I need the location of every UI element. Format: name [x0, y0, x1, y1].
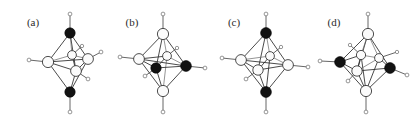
panel-b-vertex-left-open: [134, 54, 145, 65]
figure-root: (a)(b)(c)(d): [0, 0, 414, 126]
panel-c-ligand-back: [279, 45, 282, 48]
panel-b-vertex-back-open: [163, 52, 172, 61]
panel-c-vertex-front-open: [253, 65, 263, 75]
panel-d-ligand-left: [318, 59, 322, 63]
panel-d-vertex-front-open: [352, 66, 362, 76]
panel-a-ligand-back: [80, 44, 83, 47]
panel-c-vertex-back-open: [266, 52, 275, 61]
panel-c-label: (c): [228, 16, 241, 29]
panel-a-ligand-right: [99, 50, 103, 54]
panel-c-vertex-bottom-filled: [261, 87, 272, 98]
panel-b-ligand-bottom: [161, 110, 165, 114]
panel-b-label: (b): [126, 16, 139, 29]
panel-b-vertex-bottom-open: [157, 85, 168, 96]
panel-c-ligand-front: [244, 77, 248, 81]
panel-a-vertex-bottom-filled: [65, 87, 75, 97]
panel-b-ligand-front: [143, 74, 147, 78]
panel-a-ligand-bottom: [68, 110, 72, 114]
panel-a-vertex-front-open: [71, 66, 82, 77]
panel-b-ligand-back: [175, 46, 178, 49]
panel-d-vertex-back-open: [356, 50, 365, 59]
cluster-structures-figure: (a)(b)(c)(d): [0, 0, 414, 126]
panel-d-vertex-top-open: [362, 28, 373, 39]
panel-c-ligand-bottom: [264, 110, 268, 114]
panel-a-vertex-left-open: [42, 56, 53, 67]
panel-b-ligand-top: [161, 12, 165, 16]
panel-d-vertex-right-filled: [385, 63, 396, 74]
panel-a-vertex-top-filled: [65, 28, 75, 38]
panel-d-ligand-front: [346, 79, 350, 83]
panel-a-vertex-back-open: [68, 51, 77, 60]
panel-d-vertex-inner-open: [375, 54, 384, 63]
panel-b-vertex-top-open: [157, 28, 168, 39]
panel-d-ligand-top: [366, 12, 370, 16]
figure-background: [0, 0, 414, 126]
panel-a-ligand-top: [68, 12, 72, 16]
panel-d-vertex-left-filled: [335, 57, 346, 68]
panel-b-vertex-right-filled: [181, 61, 192, 72]
panel-d-label: (d): [328, 16, 341, 29]
panel-a-label: (a): [27, 16, 40, 29]
panel-b-vertex-front-filled: [151, 63, 161, 73]
panel-a-ligand-left: [27, 58, 31, 62]
panel-d-ligand-back: [348, 43, 351, 46]
panel-d-ligand-bottom: [364, 110, 368, 114]
panel-c-ligand-left: [220, 56, 224, 60]
panel-c-ligand-top: [264, 12, 268, 16]
panel-c-vertex-top-filled: [261, 28, 272, 39]
panel-c-ligand-right: [306, 65, 310, 69]
panel-d-vertex-bottom-open: [360, 85, 371, 96]
panel-a-ligand-front: [86, 77, 90, 81]
panel-b-ligand-right: [203, 66, 207, 70]
panel-c-vertex-left-open: [236, 55, 247, 66]
panel-b-ligand-left: [118, 55, 122, 59]
panel-d-ligand-inner: [395, 50, 398, 53]
panel-a-vertex-right-open: [83, 54, 94, 65]
panel-c-vertex-right-open: [283, 60, 294, 71]
panel-d-ligand-right: [405, 73, 409, 77]
